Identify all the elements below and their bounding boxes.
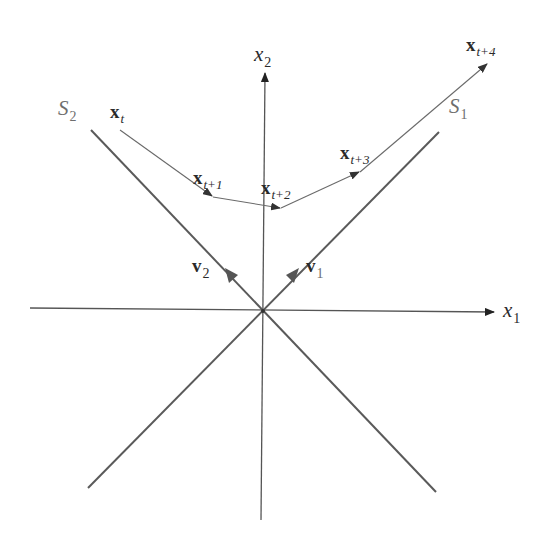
xt1-label-sub: t+1 bbox=[204, 177, 223, 192]
point-xt2-label: xt+2 bbox=[261, 178, 290, 201]
v2-label-sub: 2 bbox=[203, 266, 210, 281]
x2-axis-label: x2 bbox=[254, 44, 271, 70]
point-xt1-label: xt+1 bbox=[193, 168, 222, 191]
x1-axis-label-name: x bbox=[503, 298, 512, 322]
xt-label-sub: t bbox=[121, 111, 125, 126]
xt3-label-name: x bbox=[340, 142, 350, 163]
x1-axis-label: x1 bbox=[503, 300, 520, 326]
subspace-s2-label: S2 bbox=[58, 98, 77, 124]
x1-axis-label-sub: 1 bbox=[513, 311, 520, 326]
s1-label-name: S bbox=[449, 94, 460, 118]
v2-label: v2 bbox=[192, 256, 210, 281]
v2-label-name: v bbox=[192, 255, 202, 276]
trajectory-path bbox=[120, 64, 487, 208]
origin-point bbox=[261, 309, 265, 313]
xt3-label-sub: t+3 bbox=[351, 152, 370, 167]
xt1-label-name: x bbox=[193, 167, 203, 188]
point-xt4-label: xt+4 bbox=[466, 35, 495, 58]
x2-axis-label-sub: 2 bbox=[264, 55, 271, 70]
diagram-canvas: x2 x1 S2 S1 v2 v1 xt xt+1 xt+2 xt+3 xt+4 bbox=[0, 0, 552, 538]
xt2-label-name: x bbox=[261, 177, 271, 198]
s2-label-name: S bbox=[58, 96, 69, 120]
diagram-graphics bbox=[0, 0, 552, 538]
xt-label-name: x bbox=[110, 101, 120, 122]
v1-label-sub: 1 bbox=[317, 266, 324, 281]
xt4-label-sub: t+4 bbox=[477, 44, 496, 59]
s2-label-sub: 2 bbox=[70, 109, 77, 124]
x2-axis-label-name: x bbox=[254, 42, 263, 66]
subspace-s1-label: S1 bbox=[449, 96, 468, 122]
xt4-label-name: x bbox=[466, 34, 476, 55]
s1-label-sub: 1 bbox=[461, 107, 468, 122]
v1-label-name: v bbox=[306, 255, 316, 276]
point-xt-label: xt bbox=[110, 102, 124, 125]
xt2-label-sub: t+2 bbox=[272, 187, 291, 202]
v1-label: v1 bbox=[306, 256, 324, 281]
x2-axis bbox=[261, 73, 265, 520]
point-xt3-label: xt+3 bbox=[340, 143, 369, 166]
